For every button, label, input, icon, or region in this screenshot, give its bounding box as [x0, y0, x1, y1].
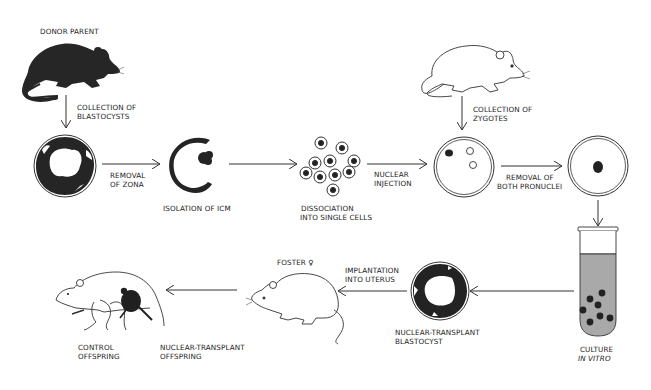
label-nt-offspring-line1: NUCLEAR-TRANSPLANT	[160, 343, 245, 352]
label-nuclear-injection-line2: INJECTION	[374, 179, 412, 188]
label-implantation-line2: INTO UTERUS	[345, 275, 395, 284]
label-culture-line1: CULTURE	[580, 345, 613, 354]
foster-mouse-icon	[246, 273, 343, 344]
label-nt-offspring-line2: OFFSPRING	[160, 352, 202, 361]
label-donor-parent: DONOR PARENT	[40, 27, 99, 36]
label-nuclear-injection-line1: NUCLEAR	[374, 170, 409, 179]
donor-parent-mouse-icon	[22, 44, 124, 102]
label-isolation-icm: ISOLATION OF ICM	[163, 204, 231, 213]
culture-tube-icon	[578, 227, 618, 336]
label-control-offspring-line2: OFFSPRING	[78, 352, 120, 361]
label-nt-blastocyst-line1: NUCLEAR-TRANSPLANT	[395, 328, 480, 337]
label-foster: FOSTER ♀	[277, 258, 314, 267]
label-collection-blastocysts-line1: COLLECTION OF	[77, 103, 136, 112]
nt-blastocyst-icon	[411, 262, 469, 320]
zygote-donor-mouse-icon	[422, 45, 530, 96]
label-collection-blastocysts-line2: BLASTOCYSTS	[77, 112, 130, 121]
injected-zygote-icon	[434, 137, 494, 197]
label-implantation-line1: IMPLANTATION	[345, 266, 399, 275]
label-collection-zygotes-line1: COLLECTION OF	[473, 105, 532, 114]
label-in-vitro: IN VITRO	[578, 354, 611, 363]
label-removal-zona-line1: REMOVAL	[110, 171, 145, 180]
label-control-offspring-line1: CONTROL	[78, 343, 114, 352]
single-cells-icon	[300, 137, 360, 196]
label-removal-zona-line2: OF ZONA	[110, 180, 144, 189]
blastocyst-icon	[34, 135, 96, 197]
icm-isolated-icon	[169, 138, 213, 193]
offspring-group-icon	[56, 272, 164, 330]
label-nt-blastocyst-line2: BLASTOCYST	[395, 337, 443, 346]
enucleated-zygote-icon	[568, 136, 628, 196]
diagram-artwork	[0, 0, 651, 390]
label-culture-line2: IN VITRO	[578, 354, 611, 363]
label-removal-pronuclei-line1: REMOVAL OF	[506, 173, 554, 182]
nuclear-transplant-diagram: DONOR PARENT COLLECTION OF BLASTOCYSTS R…	[0, 0, 651, 390]
label-dissociation-line1: DISSOCIATION	[301, 204, 354, 213]
label-collection-zygotes-line2: ZYGOTES	[473, 114, 508, 123]
label-dissociation-line2: INTO SINGLE CELLS	[300, 213, 372, 222]
label-removal-pronuclei-line2: BOTH PRONUCLEI	[497, 182, 562, 191]
